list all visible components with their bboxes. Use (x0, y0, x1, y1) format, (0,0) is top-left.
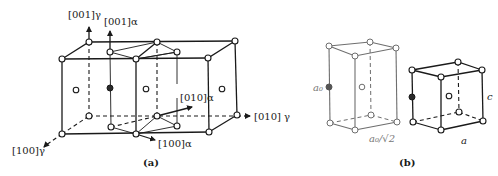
label-100-alpha: [100]α (158, 138, 192, 149)
visible-edges (62, 41, 237, 134)
label-100-gamma: [100]γ (12, 145, 45, 156)
left-bct-cell: a₀ a₀/√2 (313, 39, 400, 144)
label-a: a (461, 135, 467, 146)
figure-b-bct-cells: a₀ a₀/√2 c a (b) (313, 39, 493, 168)
label-010-gamma: [010] γ (254, 111, 290, 122)
caption-a: (a) (143, 157, 159, 168)
crystal-lattice-diagram: [001]γ [001]α [100]γ [010] γ [010]α [100… (0, 0, 498, 176)
right-bct-cell: c a (409, 59, 493, 146)
figure-a-fcc-double-cell: [001]γ [001]α [100]γ [010] γ [010]α [100… (12, 9, 290, 168)
label-010-alpha: [010]α (180, 92, 214, 103)
label-c: c (487, 91, 493, 102)
label-a0-over-root2: a₀/√2 (369, 133, 395, 144)
caption-b: (b) (399, 157, 415, 168)
arrow-010-alpha (157, 107, 192, 116)
label-001-gamma: [001]γ (68, 9, 101, 20)
label-a0: a₀ (313, 82, 323, 93)
label-001-alpha: [001]α (104, 16, 138, 27)
